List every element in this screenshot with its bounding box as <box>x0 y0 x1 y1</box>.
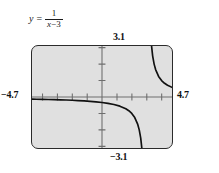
plot-canvas <box>32 46 172 148</box>
equation-lhs: y <box>29 14 33 24</box>
fraction-numerator: 1 <box>49 9 60 18</box>
x-max-label: 4.7 <box>177 89 189 100</box>
equation-equals-sign: = <box>36 14 42 24</box>
curve-left-branch <box>32 99 146 148</box>
fraction-denominator: x−3 <box>45 20 63 29</box>
x-min-label: −4.7 <box>1 89 18 100</box>
equation-fraction: 1 x−3 <box>45 9 63 30</box>
y-min-label: −3.1 <box>110 151 127 162</box>
graph-figure: y = 1 x−3 <box>0 0 219 173</box>
calculator-plot-window <box>31 45 173 149</box>
equation-label: y = 1 x−3 <box>29 9 63 30</box>
curve-right-branch <box>147 46 172 87</box>
denominator-constant: 3 <box>56 19 61 29</box>
y-max-label: 3.1 <box>113 31 125 42</box>
